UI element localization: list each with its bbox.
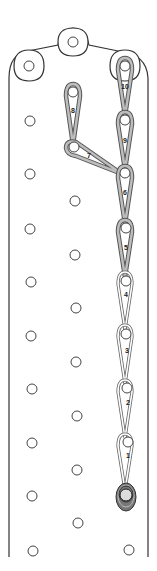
- peg-hole: [27, 384, 37, 394]
- peg-hole: [121, 223, 131, 233]
- peg-hole: [27, 491, 37, 501]
- step-label-5: 5: [124, 244, 128, 251]
- peg-hole: [124, 545, 134, 555]
- peg-hole: [121, 276, 131, 286]
- peg-hole: [120, 168, 130, 178]
- peg-hole: [24, 61, 34, 71]
- step-label-3: 3: [125, 347, 129, 354]
- peg-hole: [120, 61, 130, 71]
- step-label-6: 6: [123, 189, 127, 196]
- step-label-7: 7: [87, 152, 91, 159]
- peg-hole: [69, 142, 79, 152]
- step-label-8: 8: [71, 107, 75, 114]
- peg-hole: [72, 465, 82, 475]
- peg-hole: [26, 331, 36, 341]
- peg-hole: [28, 546, 38, 556]
- peg-hole: [26, 277, 36, 287]
- peg-hole: [25, 169, 35, 179]
- peg-hole: [71, 357, 81, 367]
- peg-hole: [27, 438, 37, 448]
- peg-hole: [68, 37, 78, 47]
- peg-hole: [25, 116, 35, 126]
- peg-hole: [71, 303, 81, 313]
- peg-hole: [73, 518, 83, 528]
- peg-hole: [70, 250, 80, 260]
- step-label-9: 9: [123, 137, 127, 144]
- pegboard-diagram: 10 9 8 7 6 5 4 3 2 1: [0, 0, 157, 571]
- step-label-4: 4: [124, 291, 128, 298]
- peg-hole: [70, 196, 80, 206]
- peg-hole: [121, 329, 131, 339]
- step-label-2: 2: [126, 399, 130, 406]
- step-label-10: 10: [121, 83, 129, 90]
- peg-hole: [122, 383, 132, 393]
- peg-hole: [25, 224, 35, 234]
- step-label-1: 1: [126, 452, 130, 459]
- peg-hole: [72, 411, 82, 421]
- peg-hole: [68, 87, 78, 97]
- peg-hole: [123, 437, 133, 447]
- wrapped-bands: [116, 483, 136, 511]
- peg-hole: [120, 115, 130, 125]
